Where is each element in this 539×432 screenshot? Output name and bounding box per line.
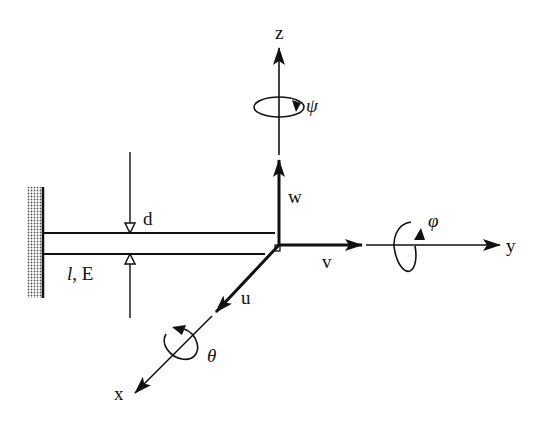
psi-label: ψ	[306, 95, 319, 116]
beam	[43, 233, 275, 254]
y-axis	[279, 222, 500, 271]
x-axis	[135, 245, 279, 393]
phi-rotation-arrowhead-icon	[414, 228, 425, 240]
w-label: w	[288, 186, 302, 207]
theta-rotation-arrowhead-icon	[172, 325, 186, 335]
phi-label: φ	[428, 210, 439, 231]
length-modulus-label: l, E	[67, 263, 93, 284]
diagram-canvas: z ψ w d v φ y u θ x l, E	[0, 0, 539, 432]
d-label: d	[143, 208, 153, 229]
u-label: u	[241, 287, 251, 308]
phi-rotation-icon	[394, 222, 416, 271]
z-axis	[254, 48, 304, 245]
z-axis-label: z	[275, 22, 283, 43]
wall-hatch	[27, 187, 42, 298]
modulus-symbol: , E	[72, 263, 93, 284]
x-axis-label: x	[114, 383, 124, 404]
y-axis-label: y	[506, 235, 516, 256]
v-label: v	[322, 251, 332, 272]
theta-label: θ	[207, 345, 216, 366]
fixed-wall	[27, 187, 43, 298]
